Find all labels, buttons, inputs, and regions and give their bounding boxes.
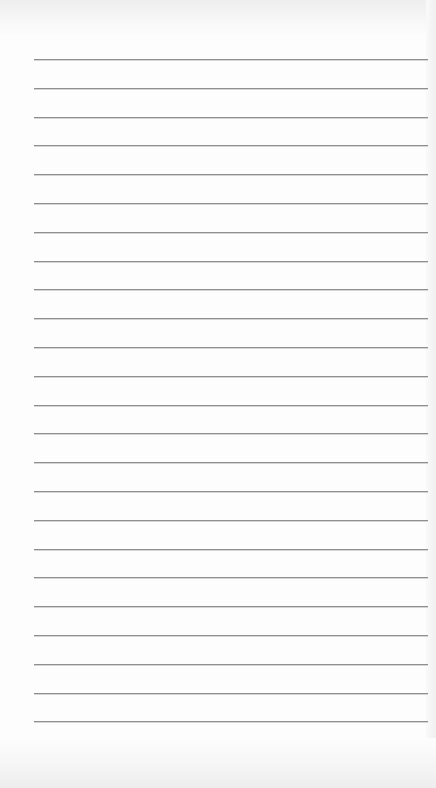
ruled-line (34, 721, 428, 723)
ruled-line (34, 145, 428, 147)
note-line-text[interactable] (38, 298, 424, 318)
ruled-line (34, 289, 428, 291)
ruled-line (34, 347, 428, 349)
note-line-text[interactable] (38, 586, 424, 606)
ruled-line (34, 491, 428, 493)
ruled-line (34, 376, 428, 378)
note-line-text[interactable] (38, 442, 424, 462)
ruled-line (34, 117, 428, 119)
note-line-text[interactable] (38, 413, 424, 433)
note-line-text[interactable] (38, 241, 424, 261)
note-line-text[interactable] (38, 385, 424, 405)
note-line-text[interactable] (38, 68, 424, 88)
ruled-line (34, 232, 428, 234)
ruled-line (34, 693, 428, 695)
note-line-text[interactable] (38, 97, 424, 117)
note-line-text[interactable] (38, 557, 424, 577)
ruled-line (34, 174, 428, 176)
note-line-text[interactable] (38, 644, 424, 664)
ruled-line (34, 261, 428, 263)
ruled-line (34, 664, 428, 666)
note-line-text[interactable] (38, 701, 424, 721)
ruled-line (34, 606, 428, 608)
notepad-page (0, 0, 436, 788)
ruled-line (34, 549, 428, 551)
note-line-text[interactable] (38, 125, 424, 145)
note-line-text[interactable] (38, 154, 424, 174)
ruled-line (34, 520, 428, 522)
note-line-text[interactable] (38, 615, 424, 635)
ruled-line (34, 405, 428, 407)
note-line-text[interactable] (38, 529, 424, 549)
ruled-line (34, 577, 428, 579)
note-line-text[interactable] (38, 269, 424, 289)
note-line-text[interactable] (38, 471, 424, 491)
note-line-text[interactable] (38, 212, 424, 232)
note-line-text[interactable] (38, 356, 424, 376)
ruled-line (34, 318, 428, 320)
ruled-line (34, 88, 428, 90)
ruled-line (34, 203, 428, 205)
note-line-text[interactable] (38, 39, 424, 59)
ruled-line (34, 635, 428, 637)
top-shadow-band (0, 0, 436, 34)
note-line-text[interactable] (38, 673, 424, 693)
ruled-line (34, 59, 428, 61)
note-line-text[interactable] (38, 327, 424, 347)
ruled-line (34, 462, 428, 464)
bottom-shadow-band (0, 738, 436, 788)
ruled-line (34, 433, 428, 435)
note-line-text[interactable] (38, 500, 424, 520)
note-line-text[interactable] (38, 183, 424, 203)
